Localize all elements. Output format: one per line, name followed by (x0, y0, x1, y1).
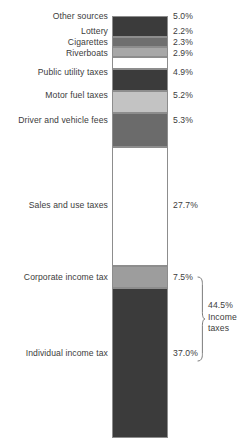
bar-segment (112, 266, 168, 288)
bar-segment (112, 16, 168, 37)
bracket-line-3: taxes (208, 323, 252, 335)
bar-segment (112, 91, 168, 113)
value-label: 7.5% (173, 272, 193, 282)
bracket-line-1: 44.5% (208, 300, 252, 312)
category-label: Sales and use taxes (2, 200, 108, 210)
value-label: 5.2% (173, 90, 193, 100)
category-label-group: Other sourcesLotteryCigarettesRiverboats… (0, 0, 108, 445)
value-label: 2.2% (173, 26, 193, 36)
bar-segment (112, 57, 168, 69)
bar-segment (112, 47, 168, 57)
value-label-group: 5.0%2.2%2.3%2.9%4.9%5.2%5.3%27.7%7.5%37.… (173, 0, 213, 445)
income-taxes-bracket-label: 44.5% Income taxes (208, 300, 252, 335)
category-label: Corporate income tax (2, 272, 108, 282)
stacked-bar-column (112, 16, 168, 438)
value-label: 27.7% (173, 200, 198, 210)
stacked-bar-chart: Other sourcesLotteryCigarettesRiverboats… (0, 0, 252, 445)
bar-segment (112, 288, 168, 438)
value-label: 2.9% (173, 48, 193, 58)
category-label: Individual income tax (2, 348, 108, 358)
bracket-line-2: Income (208, 312, 252, 324)
value-label: 5.0% (173, 11, 193, 21)
category-label: Public utility taxes (2, 67, 108, 77)
category-label: Other sources (2, 11, 108, 21)
category-label: Driver and vehicle fees (2, 115, 108, 125)
category-label: Motor fuel taxes (2, 90, 108, 100)
value-label: 37.0% (173, 348, 198, 358)
category-label: Riverboats (2, 48, 108, 58)
category-label: Lottery (2, 26, 108, 36)
category-label: Cigarettes (2, 37, 108, 47)
bar-segment (112, 37, 168, 47)
value-label: 5.3% (173, 115, 193, 125)
value-label: 4.9% (173, 67, 193, 77)
bar-segment (112, 113, 168, 147)
bar-segment (112, 147, 168, 266)
value-label: 2.3% (173, 37, 193, 47)
bar-segment (112, 69, 168, 91)
income-taxes-bracket-icon (197, 276, 206, 362)
